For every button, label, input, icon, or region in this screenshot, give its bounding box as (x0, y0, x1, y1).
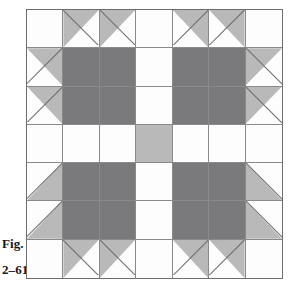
cell-r6c5-fill (173, 201, 208, 238)
cell-r5c6-fill (209, 163, 244, 200)
cell-r5c5 (173, 163, 209, 201)
cell-r4c2 (63, 125, 99, 163)
cell-r5c3 (100, 163, 136, 201)
cell-r5c5-fill (173, 163, 208, 200)
cell-r1c2 (63, 10, 99, 48)
cell-r4c3-fill (100, 125, 135, 162)
cell-r2c4-fill (136, 48, 171, 85)
cell-r3c2 (63, 87, 99, 125)
cell-r5c6 (209, 163, 245, 201)
cell-r5c2 (63, 163, 99, 201)
cell-r1c3 (100, 10, 136, 48)
cell-r5c4 (136, 163, 172, 201)
cell-r5c7 (246, 163, 282, 201)
cell-r2c7 (246, 48, 282, 86)
cell-r2c6 (209, 48, 245, 86)
figure-label-line2: 2–61 (2, 262, 28, 277)
cell-r1c5 (173, 10, 209, 48)
cell-r7c1 (27, 240, 63, 278)
cell-r2c2-fill (63, 48, 98, 85)
cell-r4c1-fill (27, 125, 62, 162)
cell-r6c7 (246, 201, 282, 239)
cell-r4c3 (100, 125, 136, 163)
cell-r4c1 (27, 125, 63, 163)
cell-r7c5 (173, 240, 209, 278)
cell-r6c3-fill (100, 201, 135, 238)
cell-r5c2-fill (63, 163, 98, 200)
cell-r6c4-fill (136, 201, 171, 238)
cell-r7c6 (209, 240, 245, 278)
cell-r1c4 (136, 10, 172, 48)
cell-r7c7 (246, 240, 282, 278)
cell-r7c2 (63, 240, 99, 278)
cell-r6c1 (27, 201, 63, 239)
cell-r7c4 (136, 240, 172, 278)
cell-r1c4-fill (136, 10, 171, 47)
cell-r4c5-fill (173, 125, 208, 162)
cell-r3c4 (136, 87, 172, 125)
cell-r5c4-fill (136, 163, 171, 200)
cell-r7c1-fill (27, 240, 62, 278)
cell-r6c4 (136, 201, 172, 239)
cell-r2c5-fill (173, 48, 208, 85)
cell-r4c5 (173, 125, 209, 163)
cell-r3c4-fill (136, 87, 171, 124)
cell-r3c5 (173, 87, 209, 125)
cell-r1c6 (209, 10, 245, 48)
cell-r1c1-fill (27, 10, 62, 47)
cell-r2c3-fill (100, 48, 135, 85)
cell-r5c3-fill (100, 163, 135, 200)
quilt-grid (27, 10, 282, 278)
cell-r3c6-fill (209, 87, 244, 124)
cell-r3c2-fill (63, 87, 98, 124)
figure-label-line1: Fig. (2, 236, 28, 251)
cell-r7c3 (100, 240, 136, 278)
cell-r6c2-fill (63, 201, 98, 238)
cell-r2c1 (27, 48, 63, 86)
cell-r3c7 (246, 87, 282, 125)
cell-r6c6 (209, 201, 245, 239)
quilt-block-figure (27, 10, 282, 278)
cell-r6c5 (173, 201, 209, 239)
cell-r6c6-fill (209, 201, 244, 238)
cell-r4c2-fill (63, 125, 98, 162)
cell-r1c1 (27, 10, 63, 48)
cell-r3c3 (100, 87, 136, 125)
cell-r1c7-fill (246, 10, 282, 47)
cell-r7c4-fill (136, 240, 171, 278)
cell-r4c7-fill (246, 125, 282, 162)
cell-r3c1 (27, 87, 63, 125)
cell-r4c7 (246, 125, 282, 163)
cell-r7c7-fill (246, 240, 282, 278)
cell-r6c3 (100, 201, 136, 239)
cell-r2c5 (173, 48, 209, 86)
cell-r2c3 (100, 48, 136, 86)
cell-r1c7 (246, 10, 282, 48)
cell-r2c2 (63, 48, 99, 86)
cell-r6c2 (63, 201, 99, 239)
cell-r3c5-fill (173, 87, 208, 124)
cell-r3c3-fill (100, 87, 135, 124)
cell-r3c6 (209, 87, 245, 125)
cell-r4c6 (209, 125, 245, 163)
cell-r5c1 (27, 163, 63, 201)
cell-r4c6-fill (209, 125, 244, 162)
cell-r4c4-fill (136, 125, 171, 162)
cell-r2c6-fill (209, 48, 244, 85)
cell-r2c4 (136, 48, 172, 86)
cell-r4c4 (136, 125, 172, 163)
